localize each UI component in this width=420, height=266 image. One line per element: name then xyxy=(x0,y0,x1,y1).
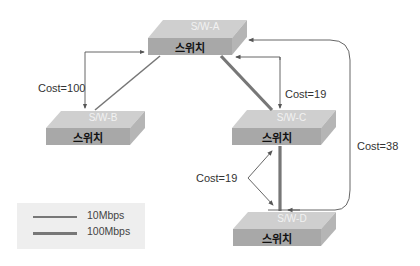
legend-line-100mbps xyxy=(33,232,77,235)
legend-label-100mbps: 100Mbps xyxy=(87,225,130,237)
switch-d-name: S/W-D xyxy=(248,213,336,224)
switch-b-label: 스위치 xyxy=(46,129,130,145)
cost-label-a-c: Cost=19 xyxy=(285,88,326,100)
arrow-cost-c-d-down xyxy=(248,178,273,205)
cost-label-a-b: Cost=100 xyxy=(38,82,85,94)
switch-b-name: S/W-B xyxy=(61,112,145,123)
arrow-cost-a-c xyxy=(236,57,280,60)
switch-d-label: 스위치 xyxy=(233,230,321,246)
switch-a-name: S/W-A xyxy=(163,21,247,32)
arrow-cost-c-d-up xyxy=(248,151,272,178)
arrow-cost-a-b xyxy=(85,52,144,95)
legend: 10Mbps 100Mbps xyxy=(17,203,145,249)
switch-a-label: 스위치 xyxy=(148,39,232,55)
cost-label-c-d: Cost=19 xyxy=(196,172,237,184)
switch-c-label: 스위치 xyxy=(232,129,321,145)
legend-line-10mbps xyxy=(33,216,77,218)
link-a-b-10mbps xyxy=(95,56,160,110)
link-a-c-100mbps xyxy=(221,56,272,110)
cost-label-a-d: Cost=38 xyxy=(357,140,398,152)
switch-c-name: S/W-C xyxy=(247,112,336,123)
legend-label-10mbps: 10Mbps xyxy=(87,209,124,221)
